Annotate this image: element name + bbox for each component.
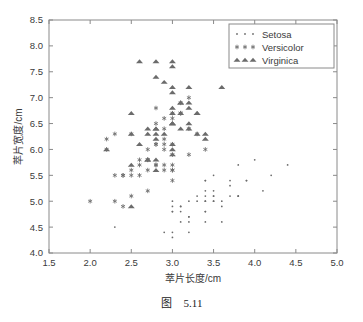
data-point-versicolor — [187, 95, 191, 100]
data-point-virginica — [103, 147, 110, 151]
y-axis-tick-label: 4.5 — [30, 222, 43, 233]
data-point-setosa — [237, 164, 239, 166]
data-point-versicolor — [162, 168, 166, 173]
y-axis-tick-label: 4.0 — [30, 247, 43, 258]
data-point-virginica — [152, 132, 159, 136]
data-point-virginica — [128, 204, 135, 208]
data-point-setosa — [254, 159, 256, 161]
figure-caption: 图5.11 — [0, 294, 363, 310]
data-point-setosa — [172, 211, 174, 213]
data-point-virginica — [152, 168, 159, 172]
data-point-virginica — [202, 132, 209, 136]
data-point-virginica — [185, 121, 192, 125]
x-axis-tick-label: 3.0 — [166, 257, 179, 268]
data-point-versicolor — [146, 189, 150, 194]
x-axis-tick-label: 4.5 — [289, 257, 302, 268]
y-axis-label: 萃片宽度/cm — [12, 108, 24, 164]
data-point-versicolor — [203, 147, 207, 152]
data-point-versicolor — [113, 199, 117, 204]
data-point-virginica — [169, 121, 176, 125]
data-point-virginica — [185, 106, 192, 110]
data-point-virginica — [185, 101, 192, 105]
data-point-virginica — [152, 59, 159, 63]
data-point-virginica — [169, 142, 176, 146]
data-point-setosa — [237, 195, 239, 197]
data-point-versicolor — [121, 173, 125, 178]
data-point-versicolor — [146, 147, 150, 152]
data-point-versicolor — [162, 147, 166, 152]
data-point-virginica — [169, 85, 176, 89]
data-point-setosa — [221, 221, 223, 223]
y-axis-tick-label: 7.0 — [30, 92, 43, 103]
data-point-setosa — [180, 206, 182, 208]
data-point-virginica — [202, 137, 209, 141]
data-point-versicolor — [138, 173, 142, 178]
data-point-setosa — [180, 221, 182, 223]
data-point-versicolor — [154, 121, 158, 126]
data-point-virginica — [128, 132, 135, 136]
data-point-virginica — [144, 127, 151, 131]
data-point-setosa — [188, 216, 190, 218]
data-point-virginica — [169, 64, 176, 68]
data-point-setosa — [188, 221, 190, 223]
data-point-setosa — [163, 231, 165, 233]
data-point-versicolor — [88, 199, 92, 204]
legend-label-versicolor: Versicolor — [262, 42, 304, 53]
data-point-versicolor — [121, 204, 125, 209]
data-point-setosa — [229, 195, 231, 197]
x-axis-tick-label: 2.0 — [84, 257, 97, 268]
x-axis-label: 萃片长度/cm — [165, 272, 221, 284]
legend-marker-setosa — [252, 33, 254, 35]
legend-label-virginica: Virginica — [262, 55, 299, 66]
data-point-versicolor — [162, 137, 166, 142]
data-point-virginica — [136, 59, 143, 63]
data-point-setosa — [204, 190, 206, 192]
data-point-virginica — [128, 111, 135, 115]
data-point-setosa — [229, 180, 231, 182]
data-point-setosa — [188, 200, 190, 202]
data-point-versicolor — [170, 116, 174, 121]
data-point-setosa — [213, 195, 215, 197]
data-point-setosa — [180, 211, 182, 213]
data-point-setosa — [196, 195, 198, 197]
data-point-versicolor — [187, 152, 191, 157]
data-point-virginica — [152, 75, 159, 79]
data-point-versicolor — [162, 163, 166, 168]
data-point-virginica — [177, 101, 184, 105]
data-point-versicolor — [162, 142, 166, 147]
data-point-virginica — [218, 85, 225, 89]
data-point-virginica — [161, 80, 168, 84]
data-point-virginica — [169, 147, 176, 151]
x-axis-tick-label: 2.5 — [125, 257, 138, 268]
series-versicolor — [88, 95, 207, 208]
data-point-virginica — [169, 59, 176, 63]
data-point-versicolor — [113, 132, 117, 137]
data-point-virginica — [152, 137, 159, 141]
data-point-setosa — [204, 221, 206, 223]
x-axis-tick-label: 3.5 — [207, 257, 220, 268]
data-point-versicolor — [129, 168, 133, 173]
data-point-setosa — [204, 200, 206, 202]
legend-marker-setosa — [236, 33, 238, 35]
data-point-virginica — [177, 111, 184, 115]
figure-iris-scatter: 1.52.02.53.03.54.04.55.04.04.55.05.56.06… — [0, 0, 363, 322]
legend-label-setosa: Setosa — [262, 29, 292, 40]
data-point-virginica — [169, 106, 176, 110]
data-point-virginica — [144, 132, 151, 136]
data-point-setosa — [204, 195, 206, 197]
data-point-setosa — [262, 190, 264, 192]
data-point-setosa — [204, 211, 206, 213]
data-point-virginica — [169, 152, 176, 156]
data-point-setosa — [270, 174, 272, 176]
data-point-versicolor — [154, 142, 158, 147]
data-point-versicolor — [154, 106, 158, 111]
caption-number: 5.11 — [184, 297, 203, 309]
y-axis-tick-label: 8.5 — [30, 14, 43, 25]
data-point-setosa — [213, 200, 215, 202]
y-axis-tick-label: 6.0 — [30, 144, 43, 155]
data-point-virginica — [194, 111, 201, 115]
data-point-virginica — [128, 163, 135, 167]
data-point-setosa — [287, 164, 289, 166]
y-axis-tick-label: 5.0 — [30, 196, 43, 207]
scatter-plot-canvas: 1.52.02.53.03.54.04.55.04.04.55.05.56.06… — [0, 0, 363, 322]
